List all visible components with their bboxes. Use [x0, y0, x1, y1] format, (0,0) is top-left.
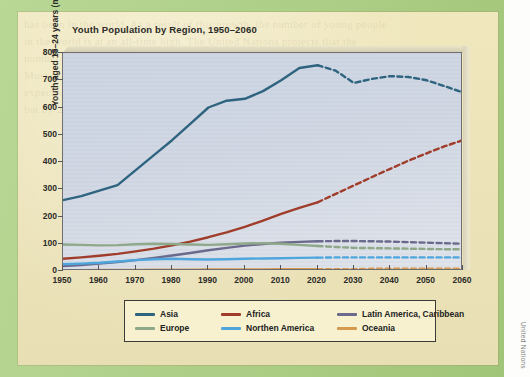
- series-line-asia: [63, 65, 318, 200]
- legend-swatch-icon: [337, 327, 357, 330]
- legend-item[interactable]: Latin America, Caribbean: [337, 309, 464, 319]
- y-tick-mark: [58, 107, 63, 108]
- legend-swatch-icon: [337, 313, 357, 316]
- x-tick-mark: [62, 265, 63, 270]
- y-tick-label: 800: [43, 47, 57, 57]
- x-tick-mark: [280, 265, 281, 270]
- y-tick-mark: [58, 216, 63, 217]
- y-tick-mark: [58, 79, 63, 80]
- x-tick-label: 2000: [234, 275, 253, 285]
- screenshot-root: has been in the world. As a result of th…: [0, 0, 530, 377]
- y-tick-label: 0: [52, 265, 57, 275]
- y-tick-label: 400: [43, 156, 57, 166]
- y-tick-label: 600: [43, 102, 57, 112]
- legend-item[interactable]: Northen America: [221, 323, 337, 333]
- x-tick-mark: [389, 265, 390, 270]
- legend-item[interactable]: Africa: [221, 309, 337, 319]
- y-tick-label: 700: [43, 74, 57, 84]
- source-credit: United Nations: [520, 322, 527, 369]
- legend-swatch-icon: [221, 313, 241, 316]
- x-tick-mark: [98, 265, 99, 270]
- y-tick-label: 300: [43, 183, 57, 193]
- x-tick-mark: [426, 265, 427, 270]
- x-tick-label: 1960: [89, 275, 108, 285]
- y-tick-mark: [58, 243, 63, 244]
- legend-label: Africa: [246, 309, 270, 319]
- series-line-europe: [63, 243, 318, 246]
- y-tick-mark: [58, 52, 63, 53]
- legend-swatch-icon: [135, 327, 155, 330]
- series-line-europe-projected: [318, 246, 462, 249]
- legend-item[interactable]: Asia: [135, 309, 221, 319]
- x-tick-label: 1990: [198, 275, 217, 285]
- x-tick-label: 1950: [53, 275, 72, 285]
- page-right-margin: [504, 0, 530, 377]
- x-tick-label: 1970: [125, 275, 144, 285]
- x-tick-mark: [462, 265, 463, 270]
- legend-label: Latin America, Caribbean: [362, 309, 464, 319]
- chart-title: Youth Population by Region, 1950–2060: [72, 24, 257, 35]
- legend-swatch-icon: [221, 327, 241, 330]
- series-line-asia-projected: [318, 65, 462, 92]
- series-lines: [63, 53, 462, 270]
- x-tick-label: 2050: [416, 275, 435, 285]
- x-tick-mark: [317, 265, 318, 270]
- x-tick-label: 2060: [453, 275, 472, 285]
- y-tick-mark: [58, 188, 63, 189]
- x-tick-label: 1980: [162, 275, 181, 285]
- x-tick-label: 2030: [343, 275, 362, 285]
- y-tick-mark: [58, 134, 63, 135]
- legend-label: Asia: [160, 309, 178, 319]
- chart-legend: AsiaAfricaLatin America, CaribbeanEurope…: [124, 300, 436, 342]
- x-tick-label: 2040: [380, 275, 399, 285]
- x-tick-mark: [244, 265, 245, 270]
- x-tick-mark: [207, 265, 208, 270]
- series-line-africa-projected: [318, 140, 462, 202]
- legend-label: Europe: [160, 323, 189, 333]
- x-tick-mark: [171, 265, 172, 270]
- y-tick-label: 100: [43, 238, 57, 248]
- x-tick-label: 2020: [307, 275, 326, 285]
- series-line-africa: [63, 202, 318, 258]
- plot-wrapper: Youth aged 15–24 years (millions) 010020…: [62, 46, 470, 270]
- plot-right-bevel: [463, 46, 470, 270]
- plot-area: [62, 52, 462, 270]
- legend-item[interactable]: Europe: [135, 323, 221, 333]
- y-tick-label: 500: [43, 129, 57, 139]
- series-line-latin-america-caribbean-projected: [318, 241, 462, 244]
- y-tick-mark: [58, 161, 63, 162]
- x-tick-mark: [135, 265, 136, 270]
- y-tick-mark: [58, 270, 63, 271]
- legend-label: Oceania: [362, 323, 395, 333]
- legend-item[interactable]: Oceania: [337, 323, 464, 333]
- series-line-northen-america: [63, 258, 318, 265]
- legend-swatch-icon: [135, 313, 155, 316]
- x-tick-mark: [353, 265, 354, 270]
- y-tick-label: 200: [43, 211, 57, 221]
- legend-label: Northen America: [246, 323, 314, 333]
- x-tick-label: 2010: [271, 275, 290, 285]
